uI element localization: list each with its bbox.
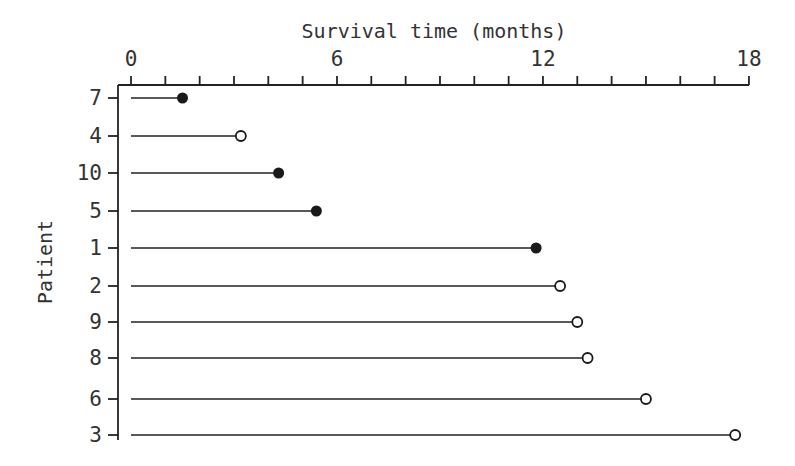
survival-chart: Survival time (months) 061218 7410512986… (0, 0, 795, 466)
patient-row (131, 168, 284, 179)
censored-marker-open (236, 131, 246, 141)
patient-row (131, 394, 651, 404)
patient-row (131, 281, 565, 291)
x-tick-label: 18 (736, 47, 761, 71)
y-axis-title: Patient (33, 220, 57, 304)
patient-row (131, 243, 542, 254)
censored-marker-open (572, 317, 582, 327)
event-marker-filled (177, 93, 188, 104)
patient-label: 2 (89, 274, 102, 298)
patient-row (131, 131, 246, 141)
y-axis: 74105129863 (77, 85, 118, 447)
x-tick-label: 6 (331, 47, 344, 71)
patient-row (131, 353, 593, 363)
patient-row (131, 206, 322, 217)
patient-label: 8 (89, 346, 102, 370)
x-tick-label: 0 (125, 47, 138, 71)
censored-marker-open (730, 430, 740, 440)
censored-marker-open (583, 353, 593, 363)
patient-row (131, 317, 582, 327)
x-tick-label: 12 (530, 47, 555, 71)
event-marker-filled (531, 243, 542, 254)
x-axis: 061218 (118, 47, 762, 85)
patient-series (131, 93, 740, 441)
censored-marker-open (641, 394, 651, 404)
patient-label: 10 (77, 161, 102, 185)
patient-label: 6 (89, 387, 102, 411)
patient-row (131, 93, 188, 104)
patient-label: 5 (89, 199, 102, 223)
event-marker-filled (311, 206, 322, 217)
x-axis-title: Survival time (months) (302, 19, 567, 43)
patient-label: 7 (89, 86, 102, 110)
patient-label: 1 (89, 236, 102, 260)
patient-row (131, 430, 740, 440)
patient-label: 9 (89, 310, 102, 334)
censored-marker-open (555, 281, 565, 291)
patient-label: 4 (89, 124, 102, 148)
patient-label: 3 (89, 423, 102, 447)
event-marker-filled (273, 168, 284, 179)
